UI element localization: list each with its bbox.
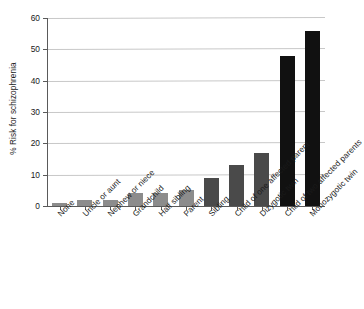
x-axis-labels: NoneUncle or auntNephew or nieceGrandchi…: [47, 210, 337, 309]
y-axis-tick-label: 60: [31, 13, 40, 23]
y-axis-title: % Risk for schizophrenia: [9, 34, 18, 184]
y-axis-tick: [43, 206, 47, 207]
y-axis-tick: [43, 175, 47, 176]
gridline: [48, 48, 325, 50]
bar: [229, 165, 244, 206]
y-axis-tick: [43, 18, 47, 19]
y-axis-tick-label: 50: [31, 44, 40, 54]
y-axis-tick: [43, 49, 47, 50]
y-axis-tick: [43, 81, 47, 82]
y-axis-tick-label: 10: [31, 170, 40, 180]
y-axis-tick: [43, 143, 47, 144]
y-axis-tick-label: 20: [31, 138, 40, 148]
y-axis-tick-label: 0: [35, 201, 40, 211]
y-axis-tick-label: 40: [31, 76, 40, 86]
plot-area: 0102030405060: [47, 18, 325, 206]
gridline: [48, 17, 325, 19]
y-axis-tick-label: 30: [31, 107, 40, 117]
y-axis-tick: [43, 112, 47, 113]
